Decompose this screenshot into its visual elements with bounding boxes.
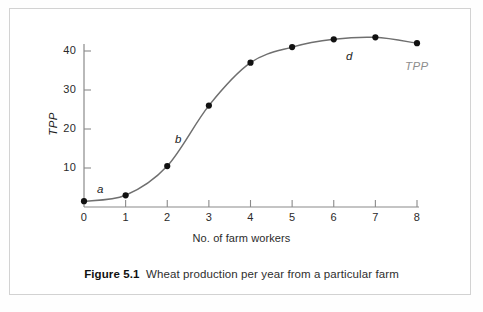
y-tick-label-10: 10 xyxy=(52,161,76,173)
x-tick-label-2: 2 xyxy=(152,211,182,223)
annotation-point-a: a xyxy=(97,183,103,195)
annotation-point-b: b xyxy=(175,133,181,145)
x-tick-label-5: 5 xyxy=(277,211,307,223)
y-tick-label-40: 40 xyxy=(52,44,76,56)
x-tick-label-6: 6 xyxy=(319,211,349,223)
annotation-point-d: d xyxy=(346,50,352,62)
x-tick-label-3: 3 xyxy=(194,211,224,223)
figure-border xyxy=(9,8,471,295)
x-tick-label-0: 0 xyxy=(69,211,99,223)
x-tick-label-1: 1 xyxy=(111,211,141,223)
y-axis-title: TPP xyxy=(47,104,59,144)
x-axis-title: No. of farm workers xyxy=(0,232,483,244)
figure-caption-label: Figure 5.1 xyxy=(84,268,139,280)
figure-caption: Figure 5.1 Wheat production per year fro… xyxy=(0,268,483,280)
annotation-curve-tpp: TPP xyxy=(405,60,429,72)
x-tick-label-7: 7 xyxy=(360,211,390,223)
figure-container: 10203040 012345678 TPP No. of farm worke… xyxy=(0,0,483,312)
figure-caption-text: Wheat production per year from a particu… xyxy=(146,268,399,280)
x-tick-label-8: 8 xyxy=(402,211,432,223)
y-tick-label-30: 30 xyxy=(52,83,76,95)
x-tick-label-4: 4 xyxy=(236,211,266,223)
